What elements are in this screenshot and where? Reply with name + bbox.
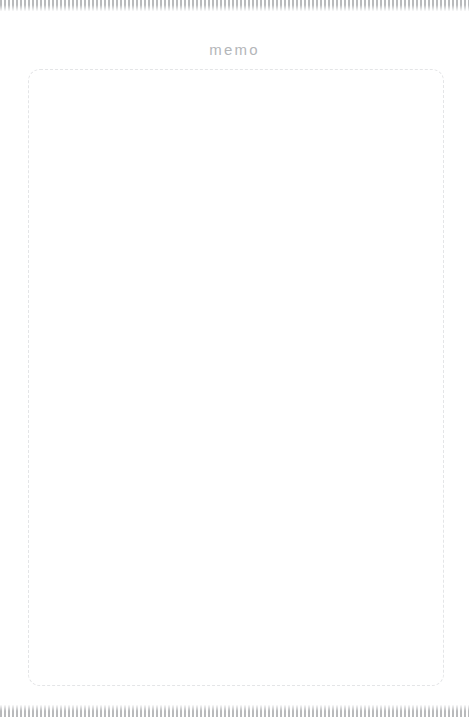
page-title: memo	[0, 40, 469, 60]
memo-page: memo	[0, 0, 469, 718]
bottom-striped-rule	[0, 705, 469, 717]
memo-writing-area[interactable]	[28, 69, 444, 686]
memo-input[interactable]	[29, 70, 443, 685]
top-striped-rule	[0, 0, 469, 11]
